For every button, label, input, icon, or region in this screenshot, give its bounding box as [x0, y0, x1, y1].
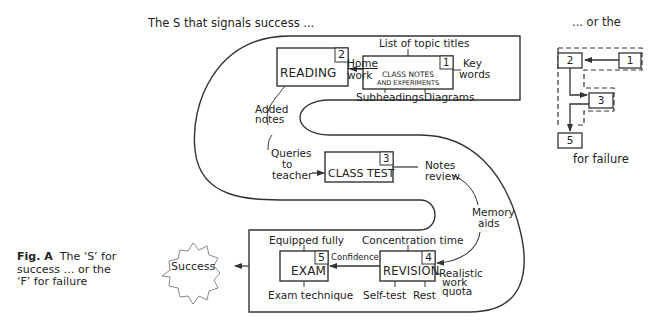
- annotation-rest: Rest: [413, 290, 436, 301]
- figure-caption: Fig. A The ‘S’ for success … or the ‘F’ …: [17, 251, 127, 289]
- annotation-aids: aids: [478, 218, 500, 229]
- annotation-teacher: teacher: [272, 170, 312, 181]
- f-stage-2-number: 2: [558, 55, 582, 66]
- annotation-notes: notes: [255, 114, 284, 125]
- annotation-words: words: [459, 69, 490, 80]
- f-stage-1-number: 1: [619, 55, 641, 66]
- stage-1-label-line2: AND EXPERIMENTS: [364, 79, 452, 87]
- annotation-list-of-topic-titles: List of topic titles: [379, 38, 469, 49]
- stage-5-number: 5: [318, 252, 325, 263]
- annotation-work: work: [347, 70, 372, 81]
- s-track-inner-curve: [420, 200, 439, 230]
- stage-4-number: 4: [425, 252, 432, 263]
- failure-title: ... or the: [572, 17, 621, 28]
- stage-5-label: EXAM: [291, 266, 326, 277]
- annotation-home: Home: [347, 58, 378, 69]
- failure-subtitle: for failure: [573, 154, 629, 165]
- success-burst-shape: [162, 243, 220, 304]
- annotation-subheadings: Subheadings: [356, 92, 424, 103]
- annotation-equipped-fully: Equipped fully: [269, 235, 344, 246]
- success-title: The S that signals success ...: [148, 18, 314, 29]
- stage-2-number: 2: [338, 49, 345, 60]
- f-stage-5-number: 5: [558, 135, 582, 146]
- stage-4-label: REVISION: [383, 266, 439, 277]
- annotation-notes-review-2: review: [425, 171, 460, 182]
- annotation-quota: quota: [442, 286, 472, 297]
- stage-3-label: CLASS TEST: [328, 168, 394, 179]
- stage-1-label-line1: CLASS NOTES: [366, 71, 450, 79]
- annotation-concentration-time: Concentration time: [362, 235, 463, 246]
- annotation-diagrams: Diagrams: [424, 92, 475, 103]
- stage-2-label: READING: [280, 68, 337, 79]
- annotation-confidence: Confidence: [331, 252, 379, 263]
- annotation-self-test: Self-test: [363, 290, 406, 301]
- figure-label: Fig. A: [17, 250, 53, 263]
- stage-1-number: 1: [443, 57, 449, 68]
- f-stage-3-number: 3: [589, 95, 613, 106]
- stage-3-number: 3: [383, 153, 389, 164]
- annotation-exam-technique: Exam technique: [268, 290, 353, 301]
- success-outcome-label: Success: [171, 261, 215, 272]
